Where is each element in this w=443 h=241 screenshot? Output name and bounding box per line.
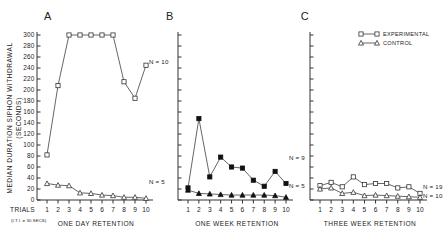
multi-panel-line-chart: A020406080100120140160180200220240260280… [0,0,443,241]
legend-marker-experimental-right [375,32,379,36]
x-tick-label: 5 [89,206,93,213]
y-tick-label: 40 [27,174,35,181]
x-tick-label: 1 [45,206,49,213]
x-tick-label: 4 [351,206,355,213]
panel-b: B12345678910N = 9N = 5ONE WEEK RETENTION [166,10,305,227]
x-tick-label: 9 [133,206,137,213]
y-tick-label: 300 [23,31,35,38]
n-label-control-c: N = 10 [423,192,443,199]
y-tick-label: 220 [23,75,35,82]
x-tick-label: 7 [111,206,115,213]
y-tick-label: 280 [23,42,35,49]
y-axis-label-line2: (SECONDS) [15,97,23,138]
x-tick-label: 5 [363,206,367,213]
n-label-control-b: N = 5 [289,182,305,189]
x-tick-label: 4 [219,206,223,213]
series-line-experimental [188,119,286,188]
x-tick-label: 8 [396,206,400,213]
y-tick-label: 0 [31,196,35,203]
y-tick-label: 180 [23,97,35,104]
panel-caption-a: ONE DAY RETENTION [58,220,135,227]
y-tick-label: 140 [23,119,35,126]
x-tick-label: 6 [100,206,104,213]
series-line-control [188,190,286,197]
x-tick-label: 4 [78,206,82,213]
panel-letter-c: C [301,10,309,22]
x-tick-label: 2 [56,206,60,213]
x-tick-label: 1 [186,206,190,213]
panel-caption-b: ONE WEEK RETENTION [195,220,279,227]
x-tick-label: 7 [251,206,255,213]
y-axis-label-line1: MEDIAN DURATION SIPHON WITHDRAWAL [6,42,13,193]
legend-marker-experimental-left [359,32,363,36]
x-tick-label: 6 [374,206,378,213]
x-tick-label: 8 [122,206,126,213]
y-tick-label: 20 [27,185,35,192]
x-tick-label: 7 [385,206,389,213]
x-tick-label: 3 [67,206,71,213]
x-tick-label: 9 [273,206,277,213]
x-tick-label: 6 [241,206,245,213]
panel-a: A020406080100120140160180200220240260280… [23,10,169,227]
n-label-experimental-a: N = 10 [149,58,169,65]
n-label-experimental-c: N = 19 [423,183,443,190]
legend: EXPERIMENTALCONTROL [359,31,430,46]
n-label-control-a: N = 5 [149,178,165,185]
legend-label-control: CONTROL [383,40,412,46]
y-tick-label: 80 [27,152,35,159]
series-markers-experimental [318,175,422,196]
y-tick-label: 60 [27,163,35,170]
legend-label-experimental: EXPERIMENTAL [383,31,429,37]
x-tick-label: 10 [142,206,150,213]
series-line-control [320,188,420,197]
x-tick-label: 3 [340,206,344,213]
trials-axis-word: TRIALS [10,206,35,213]
y-tick-label: 260 [23,53,35,60]
y-tick-label: 240 [23,64,35,71]
series-line-control [47,184,146,199]
y-tick-label: 100 [23,141,35,148]
x-tick-label: 9 [407,206,411,213]
x-tick-label: 2 [329,206,333,213]
y-tick-label: 200 [23,86,35,93]
panel-letter-b: B [166,10,174,22]
y-tick-label: 120 [23,130,35,137]
series-line-experimental [47,35,146,155]
panel-c: C12345678910N = 19N = 10THREE WEEK RETEN… [301,10,443,227]
x-tick-label: 1 [318,206,322,213]
x-tick-label: 10 [282,206,290,213]
figure-root: A020406080100120140160180200220240260280… [0,0,443,241]
x-tick-label: 5 [230,206,234,213]
x-tick-label: 3 [208,206,212,213]
x-tick-label: 10 [416,206,424,213]
x-tick-label: 2 [197,206,201,213]
series-markers-experimental [186,117,288,191]
iti-note: (I.T.I. = 30 SECS) [11,218,47,223]
panel-letter-a: A [44,10,52,22]
n-label-experimental-b: N = 9 [289,154,305,161]
x-tick-label: 8 [262,206,266,213]
y-tick-label: 160 [23,108,35,115]
series-line-experimental [320,177,420,194]
panel-caption-c: THREE WEEK RETENTION [324,220,417,227]
